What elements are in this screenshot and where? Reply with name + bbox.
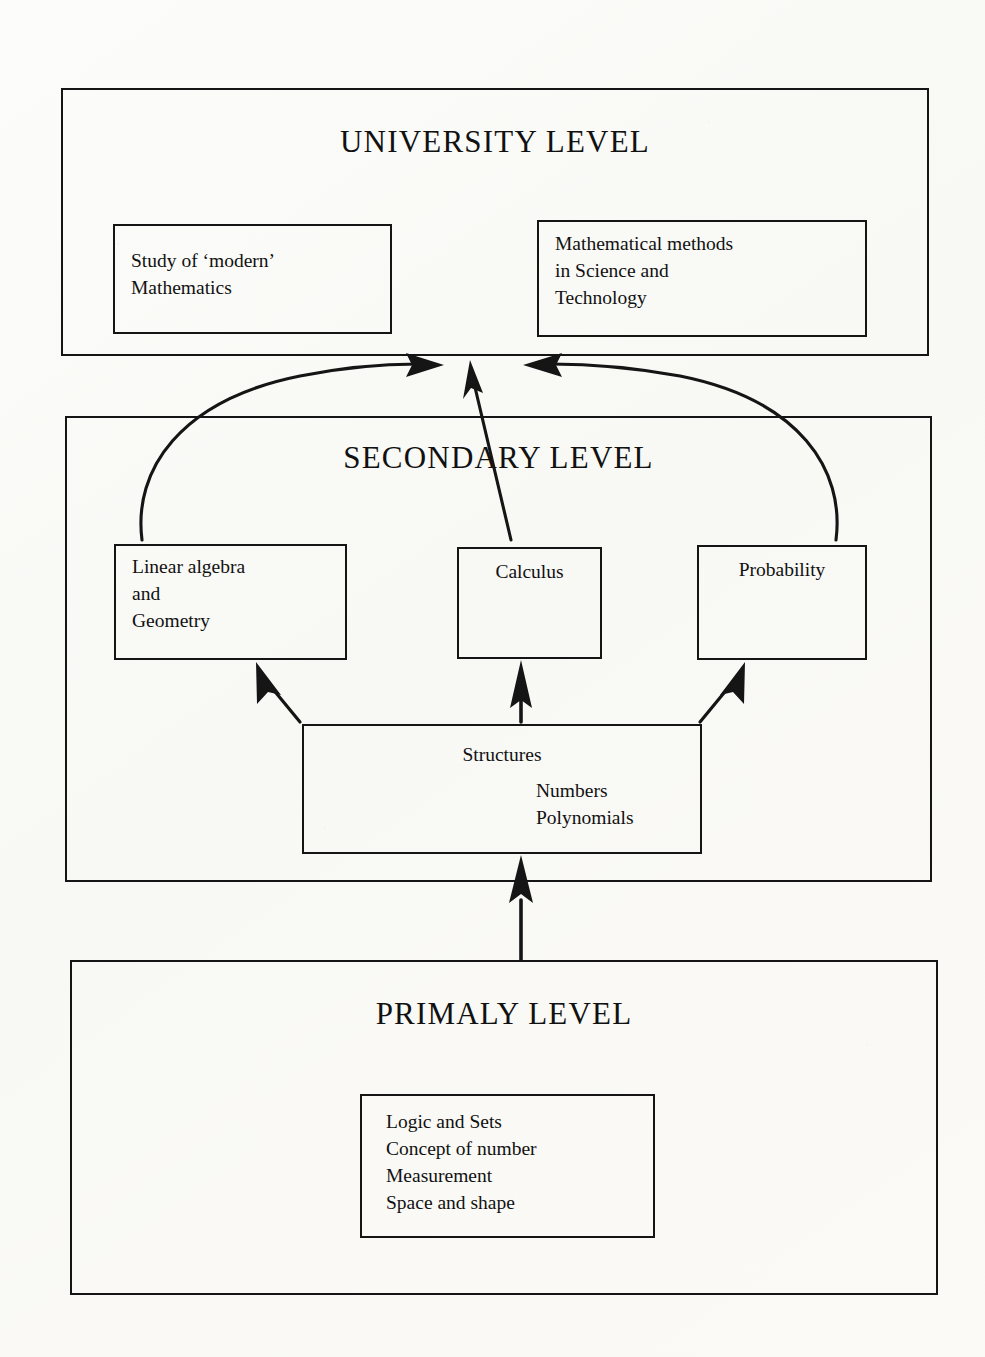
modern-mathematics-text: Study of ‘modern’ Mathematics xyxy=(131,248,275,302)
primary-topics-text: Logic and Sets Concept of number Measure… xyxy=(386,1109,537,1217)
structures-box: Structures Numbers Polynomials xyxy=(302,724,702,854)
linear-algebra-box: Linear algebra and Geometry xyxy=(114,544,347,660)
structures-subtopics-text: Numbers Polynomials xyxy=(536,778,634,832)
probability-text: Probability xyxy=(699,557,865,584)
primary-level-title: PRIMALY LEVEL xyxy=(72,996,936,1032)
probability-box: Probability xyxy=(697,545,867,660)
mathematical-methods-box: Mathematical methods in Science and Tech… xyxy=(537,220,867,337)
calculus-box: Calculus xyxy=(457,547,602,659)
modern-mathematics-box: Study of ‘modern’ Mathematics xyxy=(113,224,392,334)
calculus-text: Calculus xyxy=(459,559,600,586)
secondary-level-box: SECONDARY LEVEL Linear algebra and Geome… xyxy=(65,416,932,882)
primary-level-box: PRIMALY LEVEL Logic and Sets Concept of … xyxy=(70,960,938,1295)
linear-algebra-text: Linear algebra and Geometry xyxy=(132,554,245,635)
structures-text: Structures xyxy=(304,742,700,769)
secondary-level-title: SECONDARY LEVEL xyxy=(67,440,930,476)
university-level-title: UNIVERSITY LEVEL xyxy=(63,124,927,160)
primary-topics-box: Logic and Sets Concept of number Measure… xyxy=(360,1094,655,1238)
mathematical-methods-text: Mathematical methods in Science and Tech… xyxy=(555,231,733,312)
university-level-box: UNIVERSITY LEVEL Study of ‘modern’ Mathe… xyxy=(61,88,929,356)
diagram-page: UNIVERSITY LEVEL Study of ‘modern’ Mathe… xyxy=(0,0,985,1357)
